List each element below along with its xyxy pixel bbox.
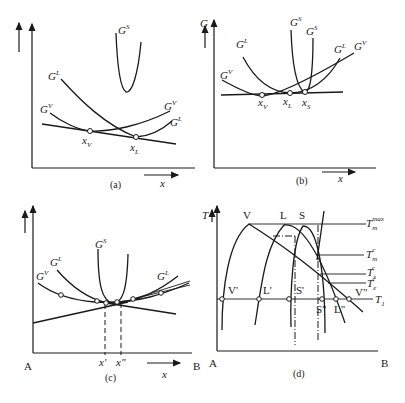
svg-text:GL: GL [236,37,248,50]
svg-text:L': L' [263,284,272,296]
point-S1 [287,297,292,302]
svg-text:GL: GL [157,269,169,282]
svg-text:GL: GL [170,115,182,128]
common-tangent-line [42,124,176,144]
svg-text:(d): (d) [293,368,305,380]
svg-text:GS: GS [306,24,318,37]
svg-text:GV: GV [164,99,177,112]
svg-text:GS: GS [95,237,107,250]
curve-GL [243,57,340,93]
curve-GV [222,53,354,96]
point-xS [303,90,308,95]
svg-text:B: B [193,360,200,372]
point [59,293,64,298]
svg-text:T: T [202,209,209,221]
svg-text:S: S [299,209,305,221]
svg-text:G: G [200,17,208,29]
slanted-line [317,211,324,260]
svg-text:GV: GV [354,39,367,52]
point-V2 [347,297,352,302]
curve-GS [98,249,128,303]
point-L2 [334,297,339,302]
point-V1 [220,297,225,302]
point-S2 [320,297,325,302]
svg-text:B: B [381,357,388,369]
curve-GS [291,30,313,92]
point [159,291,164,296]
svg-text:GV: GV [220,68,233,81]
curve-GL-right [120,276,178,302]
svg-text:x': x' [98,356,107,368]
point-xL [288,91,293,96]
svg-text:S": S" [316,303,327,315]
curve-GS [116,33,141,92]
point-L1 [257,297,262,302]
svg-text:(b): (b) [296,175,308,187]
figure-canvas: GS GL GV GV GL xV xL x (a) G GV GL GS GS… [0,0,405,403]
svg-text:x": x" [115,356,126,368]
svg-text:GS: GS [290,15,302,28]
point [115,300,120,305]
panel-c: GV GL GS GL x' x" A B x (c) [24,206,200,384]
svg-text:xV: xV [81,134,92,149]
panel-d: T V L S V' L' S' S" L" V" Tmmax [202,206,388,380]
svg-text:Tmmax: Tmmax [366,215,385,232]
svg-text:T1: T1 [375,293,385,308]
svg-text:S': S' [296,284,304,296]
svg-text:(c): (c) [105,372,116,384]
svg-text:x: x [159,177,165,189]
common-tangent-line [33,302,128,323]
panel-a: GS GL GV GV GL xV xL x (a) [19,23,195,191]
tangent-line [133,281,190,299]
svg-text:V': V' [228,284,238,296]
svg-text:x: x [161,368,167,380]
svg-text:(a): (a) [110,179,121,191]
svg-text:xL: xL [129,141,139,156]
svg-text:xL: xL [282,95,292,110]
svg-text:GS: GS [118,23,130,36]
panel-b: G GV GL GS GS GL GV xV xL xS x (b) [200,15,376,187]
curve-L [255,225,345,325]
svg-text:V: V [243,209,251,221]
svg-text:V": V" [355,286,367,298]
point-xL [134,135,139,140]
svg-text:GV: GV [36,269,49,282]
svg-text:A: A [24,360,32,372]
svg-text:x: x [337,172,343,184]
point [104,301,109,306]
svg-text:L": L" [334,303,345,315]
svg-text:Tmc: Tmc [366,246,377,263]
svg-text:xV: xV [257,96,268,111]
svg-text:GL: GL [334,42,346,55]
svg-text:GL: GL [48,69,60,82]
point-xV [88,129,93,134]
svg-text:Tec: Tec [367,275,376,292]
svg-text:GL: GL [50,255,62,268]
svg-text:A: A [209,357,217,369]
point [131,297,136,302]
point [95,299,100,304]
svg-text:L: L [280,209,287,221]
svg-text:xS: xS [301,96,311,111]
